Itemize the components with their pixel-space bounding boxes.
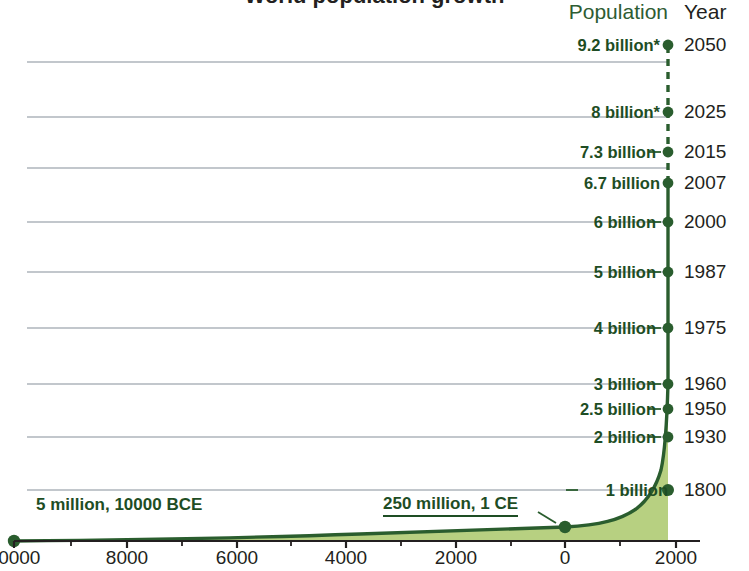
data-point-1-ce[interactable] xyxy=(559,521,571,533)
data-point-2007[interactable] xyxy=(663,178,674,189)
x-axis-label-4000bce: 4000 xyxy=(325,547,367,569)
data-point-2015[interactable] xyxy=(663,147,674,158)
population-label-1975: 4 billion xyxy=(594,319,656,338)
year-column-header: Year xyxy=(684,0,726,24)
annotation-10000-bce: 5 million, 10000 BCE xyxy=(36,495,202,515)
year-label-1975: 1975 xyxy=(684,317,726,339)
year-label-1800: 1800 xyxy=(684,479,726,501)
data-point-1950[interactable] xyxy=(663,404,674,415)
year-label-1960: 1960 xyxy=(684,373,726,395)
gridlines xyxy=(27,62,668,490)
population-label-2000: 6 billion xyxy=(594,213,656,232)
year-label-2007: 2007 xyxy=(684,172,726,194)
population-label-2007: 6.7 billion xyxy=(584,174,660,193)
population-label-1930: 2 billion xyxy=(594,428,656,447)
population-curve xyxy=(14,384,668,541)
x-axis-label-6000bce: 6000 xyxy=(216,547,258,569)
population-label-1800: 1 billion xyxy=(606,481,668,500)
year-label-2025: 2025 xyxy=(684,101,726,123)
population-label-1987: 5 billion xyxy=(594,263,656,282)
year-label-2050: 2050 xyxy=(684,34,726,56)
population-column-header: Population xyxy=(569,0,668,24)
annotation-1-ce: 250 million, 1 CE xyxy=(383,494,518,517)
x-axis-label-8000bce: 8000 xyxy=(106,547,148,569)
population-label-2025: 8 billion* xyxy=(591,103,660,122)
data-point-2025[interactable] xyxy=(663,107,674,118)
data-point-1987[interactable] xyxy=(663,267,674,278)
population-label-2015: 7.3 billion xyxy=(580,143,656,162)
data-point-1975[interactable] xyxy=(663,323,674,334)
data-point-1930[interactable] xyxy=(663,432,674,443)
data-point-1960[interactable] xyxy=(663,379,674,390)
data-point-2050[interactable] xyxy=(663,40,674,51)
x-axis-label-2000bce: 2000 xyxy=(435,547,477,569)
year-label-2000: 2000 xyxy=(684,211,726,233)
leader-1-ce-callout xyxy=(538,512,556,523)
year-label-2015: 2015 xyxy=(684,141,726,163)
year-label-1950: 1950 xyxy=(684,398,726,420)
x-axis-label-0: 0 xyxy=(560,547,571,569)
x-axis-label-2000ce: 2000 xyxy=(655,547,697,569)
data-point-2000[interactable] xyxy=(663,217,674,228)
population-label-1960: 3 billion xyxy=(594,375,656,394)
population-label-1950: 2.5 billion xyxy=(580,400,656,419)
year-label-1930: 1930 xyxy=(684,426,726,448)
year-label-1987: 1987 xyxy=(684,261,726,283)
population-area-fill xyxy=(14,384,668,541)
population-label-2050: 9.2 billion* xyxy=(577,36,660,55)
chart-canvas: World population growth xyxy=(0,0,749,571)
x-axis-label-10000bce: 10000 xyxy=(0,547,40,569)
